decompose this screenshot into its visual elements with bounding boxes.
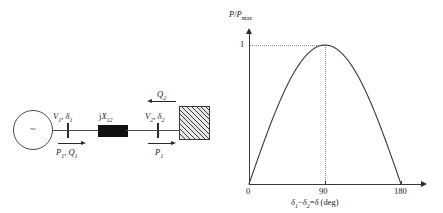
arrow-line-q2 xyxy=(152,101,176,102)
power-angle-curve xyxy=(235,0,443,213)
chart-xtick-label-90: 90 xyxy=(319,187,328,196)
label-p-receiving: P1 xyxy=(155,148,163,159)
chart-xtick-label-180: 180 xyxy=(394,187,407,196)
sine-wave-icon: ~ xyxy=(30,123,36,134)
label-q2: Q2 xyxy=(157,90,166,101)
power-angle-chart: P/Pmax 0 90 180 1 δ1−δ2=δ (deg) xyxy=(235,0,443,213)
label-v1-delta1: V1, δ1 xyxy=(53,112,72,123)
chart-x-axis-title: δ1−δ2=δ (deg) xyxy=(291,198,339,209)
label-v2-delta2: V2, δ2 xyxy=(145,112,164,123)
circuit-diagram: ~ V1, δ1 P1, Q1 jX12 xyxy=(0,0,235,213)
delta2-subscript: 2 xyxy=(161,117,164,123)
chart-xtick-0 xyxy=(249,181,250,185)
wire-bus1-to-reactance xyxy=(67,130,98,131)
arrow-head-q2 xyxy=(147,99,152,103)
q1-subscript: 1 xyxy=(75,153,78,159)
xtitle-units: (deg) xyxy=(321,197,339,207)
q2-subscript: 2 xyxy=(163,95,166,101)
chart-xtick-label-0: 0 xyxy=(246,187,250,196)
delta1-subscript: 1 xyxy=(69,117,72,123)
series-reactance-block xyxy=(98,125,128,137)
chart-xtick-90 xyxy=(325,181,326,185)
chart-xtick-180 xyxy=(401,181,402,185)
arrow-line-p1-q1 xyxy=(58,143,82,144)
chart-ytick-label-1: 1 xyxy=(240,40,244,49)
arrow-line-p-receiving xyxy=(148,143,172,144)
ac-source-symbol: ~ xyxy=(13,110,53,150)
wire-reactance-to-bus2 xyxy=(126,130,158,131)
jx12-subscript: 12 xyxy=(107,117,113,123)
wire-bus2-to-load xyxy=(157,130,179,131)
label-jx12: jX12 xyxy=(99,112,113,123)
arrow-head-p-receiving xyxy=(171,141,176,145)
arrow-head-p1-q1 xyxy=(81,141,86,145)
load-block xyxy=(179,106,210,140)
figure-root: ~ V1, δ1 P1, Q1 jX12 xyxy=(0,0,443,213)
label-p1-q1: P1, Q1 xyxy=(56,148,78,159)
p-receiving-subscript: 1 xyxy=(160,153,163,159)
